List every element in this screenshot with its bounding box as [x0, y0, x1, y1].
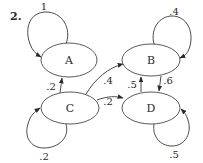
edge-label: 1 — [41, 1, 47, 12]
node-B: B — [122, 44, 180, 76]
node-D: D — [122, 92, 180, 124]
edge-label: .4 — [169, 6, 179, 17]
markov-chain-diagram: 2. 1 .4 .2 .5 .2 .4 .2 .5 .6 — [0, 0, 203, 163]
edge-C-D: .2 — [97, 96, 123, 107]
edge-label: .2 — [46, 81, 56, 92]
edge-label: .5 — [169, 149, 179, 160]
node-label: D — [147, 102, 156, 115]
edge-label: .5 — [127, 79, 137, 90]
node-C: C — [41, 92, 99, 124]
edge-label: .2 — [103, 96, 113, 107]
edge-label: .4 — [103, 75, 113, 86]
node-label: B — [147, 54, 155, 67]
edge-label: .6 — [163, 75, 173, 86]
node-A: A — [41, 43, 97, 77]
node-label: C — [66, 102, 74, 115]
edge-D-B: .5 — [127, 77, 141, 92]
edge-B-D: .6 — [159, 75, 173, 91]
node-label: A — [64, 54, 74, 67]
problem-number: 2. — [10, 10, 21, 23]
edge-label: .2 — [39, 151, 49, 162]
edge-C-A: .2 — [46, 78, 62, 93]
